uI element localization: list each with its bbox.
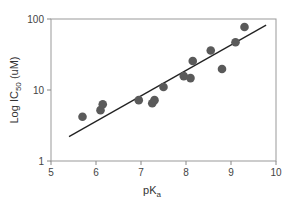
y-tick-label: 10 bbox=[33, 85, 45, 96]
x-tick-label: 9 bbox=[228, 167, 234, 178]
y-tick-label: 100 bbox=[27, 14, 44, 25]
y-axis-title: Log IC50 (uM) bbox=[8, 57, 23, 124]
x-tick-label: 8 bbox=[183, 167, 189, 178]
data-point bbox=[206, 46, 215, 55]
x-tick-label: 7 bbox=[138, 167, 144, 178]
data-point bbox=[134, 96, 143, 105]
x-axis: 5678910 bbox=[48, 161, 282, 178]
data-point bbox=[240, 23, 249, 32]
x-tick-label: 5 bbox=[48, 167, 54, 178]
data-point bbox=[188, 57, 197, 66]
x-axis-title: pKa bbox=[143, 184, 161, 199]
y-tick-label: 1 bbox=[38, 156, 44, 167]
data-points bbox=[78, 23, 249, 121]
data-point bbox=[186, 74, 195, 83]
data-point bbox=[218, 65, 227, 74]
data-point bbox=[78, 112, 87, 121]
data-point bbox=[150, 96, 159, 105]
x-tick-label: 10 bbox=[270, 167, 282, 178]
scatter-chart: 110100 5678910 pKa Log IC50 (uM) bbox=[0, 0, 289, 204]
x-tick-label: 6 bbox=[93, 167, 99, 178]
y-axis: 110100 bbox=[27, 14, 51, 167]
data-point bbox=[98, 100, 107, 109]
data-point bbox=[231, 38, 240, 47]
data-point bbox=[159, 83, 168, 92]
